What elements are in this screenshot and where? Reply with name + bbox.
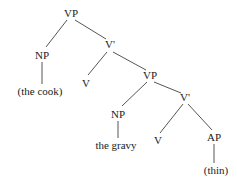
node-v-lower: V	[154, 134, 162, 146]
node-vbar-lower: V'	[180, 91, 190, 103]
node-np-object: NP	[111, 108, 125, 120]
node-ap: AP	[207, 131, 221, 143]
leaf-thin: (thin)	[204, 164, 229, 177]
edge-vp1-vbar1	[75, 20, 106, 39]
edge-vp2-np2	[122, 82, 147, 106]
edge-vp2-vbar2	[154, 82, 181, 93]
node-np-subject: NP	[35, 49, 49, 61]
node-v-upper: V	[82, 77, 90, 89]
edge-vp1-np1	[46, 20, 67, 47]
syntax-tree: VP NP (the cook) V' V VP NP the gravy V'…	[0, 0, 237, 185]
edge-vbar2-v2	[160, 104, 183, 133]
node-vp-root: VP	[64, 7, 78, 19]
edge-vbar2-ap	[188, 104, 212, 130]
node-vp-inner: VP	[143, 69, 157, 81]
edge-vbar1-vp2	[113, 52, 146, 70]
tree-nodes: VP NP (the cook) V' V VP NP the gravy V'…	[18, 7, 229, 177]
node-vbar-upper: V'	[105, 38, 115, 50]
leaf-the-cook: (the cook)	[18, 85, 63, 98]
leaf-the-gravy: the gravy	[95, 139, 137, 151]
edge-vbar1-v1	[88, 52, 107, 75]
